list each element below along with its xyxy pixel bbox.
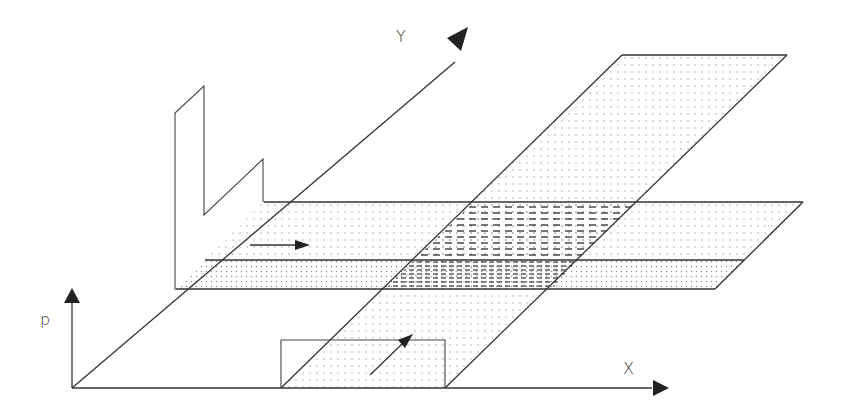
- diagram-canvas: p X Y: [0, 0, 843, 418]
- y-axis-label: Y: [396, 27, 406, 46]
- x-axis-label: X: [623, 359, 634, 378]
- x-axis-arrowhead-icon: [653, 380, 669, 396]
- p-axis: [64, 288, 80, 388]
- y-axis-arrowhead-icon: [447, 27, 468, 51]
- overlap-region-lower: [385, 260, 577, 289]
- p-axis-label: p: [40, 310, 50, 329]
- p-axis-arrowhead-icon: [64, 288, 80, 303]
